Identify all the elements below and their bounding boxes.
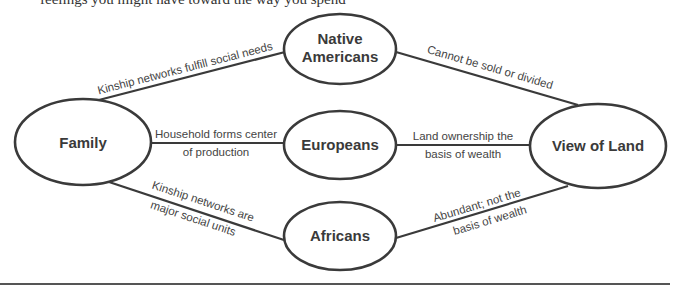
edge-family-africans [106,181,284,240]
edge-label-family-europeans-line2: of production [183,146,250,158]
concept-diagram: Family Native Americans Europeans Africa… [0,0,677,290]
node-family-label: Family [59,134,107,151]
edge-label-family-europeans-line1: Household forms center [155,128,277,140]
node-europeans-label: Europeans [301,136,379,153]
node-native-americans-label-line1: Native [317,30,362,47]
edge-label-family-native-americans: Kinship networks fulfill social needs [96,40,274,97]
node-africans-label: Africans [310,227,370,244]
edge-label-europeans-view-of-land-line1: Land ownership the [413,130,513,142]
edge-family-native-americans [95,52,285,101]
edge-label-europeans-view-of-land-line2: basis of wealth [425,148,501,160]
edge-africans-view-of-land [396,186,568,238]
node-native-americans-label-line2: Americans [302,48,379,65]
node-view-of-land-label: View of Land [552,137,644,154]
bottom-divider [0,283,670,285]
